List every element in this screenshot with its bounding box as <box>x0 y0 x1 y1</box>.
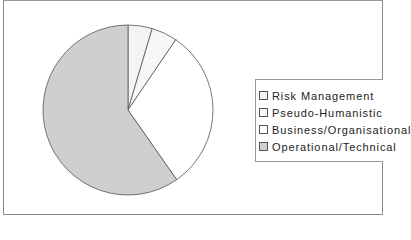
legend-item-risk-management: Risk Management <box>256 87 383 104</box>
legend-label: Risk Management <box>272 90 374 102</box>
legend-swatch-icon <box>259 125 268 134</box>
legend: Risk Management Pseudo-Humanistic Busine… <box>255 79 383 162</box>
legend-swatch-icon <box>259 142 268 151</box>
legend-label: Pseudo-Humanistic <box>272 107 383 119</box>
legend-item-pseudo-humanistic: Pseudo-Humanistic <box>256 104 383 121</box>
legend-swatch-icon <box>259 91 268 100</box>
legend-swatch-icon <box>259 108 268 117</box>
legend-label: Business/Organisational <box>272 124 411 136</box>
legend-item-business-organisational: Business/Organisational <box>256 121 383 138</box>
legend-label: Operational/Technical <box>272 141 397 153</box>
legend-item-operational-technical: Operational/Technical <box>256 138 383 155</box>
